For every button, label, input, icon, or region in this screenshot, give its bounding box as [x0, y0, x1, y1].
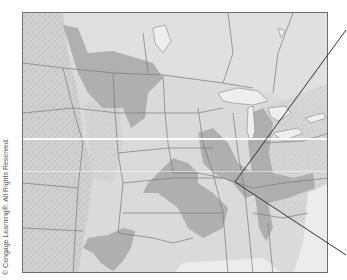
map-frame — [22, 12, 328, 273]
copyright-notice: © Cengage Learning®. All Rights Reserved… — [2, 125, 9, 275]
map-graphic — [23, 13, 328, 273]
scan-line — [23, 138, 328, 140]
